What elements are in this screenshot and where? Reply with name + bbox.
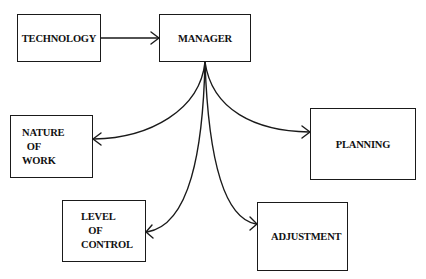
node-label-line: NATURE <box>22 126 64 140</box>
edge-manager-level-of-control <box>147 62 205 232</box>
node-label: TECHNOLOGY <box>22 33 96 44</box>
node-label: ADJUSTMENT <box>271 231 341 242</box>
node-nature-of-work: NATURE OF WORK <box>10 115 93 178</box>
node-label: MANAGER <box>178 33 232 44</box>
node-adjustment: ADJUSTMENT <box>257 202 348 271</box>
node-label-line: WORK <box>22 154 64 168</box>
node-level-of-control: LEVEL OF CONTROL <box>62 200 146 262</box>
node-planning: PLANNING <box>310 108 416 180</box>
node-manager: MANAGER <box>159 14 251 62</box>
node-label-line: LEVEL <box>81 210 133 224</box>
node-label-line: CONTROL <box>81 238 133 252</box>
node-label: PLANNING <box>336 139 390 150</box>
edge-manager-planning <box>205 62 309 132</box>
node-label-line: OF <box>81 224 133 238</box>
node-technology: TECHNOLOGY <box>17 14 101 62</box>
node-label-line: OF <box>22 140 64 154</box>
edge-manager-nature-of-work <box>94 62 205 139</box>
manager-influence-diagram: TECHNOLOGY MANAGER NATURE OF WORK PLANNI… <box>0 0 426 279</box>
